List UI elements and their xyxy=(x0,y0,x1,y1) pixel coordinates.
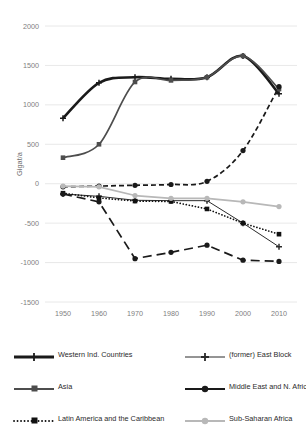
x-axis-tick-label: 1980 xyxy=(163,309,179,318)
x-axis-tick-label: 1970 xyxy=(127,309,143,318)
data-point-marker xyxy=(276,204,281,209)
data-point-marker xyxy=(97,142,102,147)
legend-label: Middle East and N. Africa xyxy=(229,382,306,392)
data-point-marker xyxy=(204,179,209,184)
legend-label: Sub-Saharan Africa xyxy=(229,414,292,424)
y-axis-tick-label: -1000 xyxy=(21,258,39,267)
y-axis-tick-label: 1000 xyxy=(23,100,39,109)
x-axis-tick-label: 2010 xyxy=(271,309,287,318)
data-point-marker xyxy=(204,243,209,248)
y-axis-tick-label: -500 xyxy=(25,219,39,228)
legend-label: Asia xyxy=(58,382,72,392)
x-axis-tick-label: 1950 xyxy=(55,309,71,318)
chart-container: 2000150010005000-500-1000-15001950196019… xyxy=(0,0,306,443)
series-line xyxy=(63,87,279,187)
data-point-marker xyxy=(241,221,246,226)
y-axis-title: Gigat/a xyxy=(15,151,24,176)
legend-item-asia[interactable]: Asia xyxy=(12,376,182,398)
legend-label: (former) East Block xyxy=(229,350,291,360)
data-point-marker xyxy=(168,250,173,255)
y-axis-tick-label: 0 xyxy=(35,179,39,188)
legend-item-latin-america-and-the-caribbean[interactable]: Latin America and the Caribbean xyxy=(12,408,182,430)
legend-label: Latin America and the Caribbean xyxy=(58,414,164,424)
legend-item-middle-east-and-n-africa[interactable]: Middle East and N. Africa xyxy=(183,376,303,398)
data-point-marker xyxy=(132,193,137,198)
y-axis-tick-label: 500 xyxy=(27,140,39,149)
legend-marker-asia xyxy=(12,381,56,393)
data-point-marker xyxy=(240,148,245,153)
x-axis-tick-label: 1990 xyxy=(199,309,215,318)
data-point-marker xyxy=(168,182,173,187)
legend-marker-latin-america-and-the-caribbean xyxy=(12,413,56,425)
series-line xyxy=(63,56,279,158)
y-axis-tick-label: 1500 xyxy=(23,61,39,70)
data-point-marker xyxy=(204,196,209,201)
data-point-marker xyxy=(132,256,137,261)
chart-legend: Western Ind. Countries (former) East Blo… xyxy=(0,336,306,443)
data-point-marker xyxy=(205,207,210,212)
data-point-marker xyxy=(168,196,173,201)
legend-item-former-east-block[interactable]: (former) East Block xyxy=(183,344,303,366)
data-point-marker xyxy=(241,54,246,59)
data-point-marker xyxy=(169,78,174,83)
data-point-marker xyxy=(276,84,281,89)
legend-marker-western-ind-countries xyxy=(12,349,56,361)
data-point-marker xyxy=(132,183,137,188)
data-point-marker xyxy=(133,80,138,85)
legend-item-sub-saharan-africa[interactable]: Sub-Saharan Africa xyxy=(183,408,303,430)
data-point-marker xyxy=(60,183,65,188)
data-point-marker xyxy=(240,258,245,263)
data-point-marker xyxy=(61,155,66,160)
legend-marker-middle-east-and-n-africa xyxy=(183,381,227,393)
data-point-marker xyxy=(276,259,281,264)
x-axis-tick-label: 2000 xyxy=(235,309,251,318)
data-point-marker xyxy=(276,244,282,250)
data-point-marker xyxy=(240,199,245,204)
data-point-marker xyxy=(205,75,210,80)
legend-label: Western Ind. Countries xyxy=(58,350,133,360)
x-axis-tick-label: 1960 xyxy=(91,309,107,318)
y-axis-tick-label: 2000 xyxy=(23,22,39,31)
data-point-marker xyxy=(277,232,282,237)
data-point-marker xyxy=(96,199,101,204)
data-point-marker xyxy=(96,184,101,189)
data-point-marker xyxy=(60,191,65,196)
legend-item-western-ind-countries[interactable]: Western Ind. Countries xyxy=(12,344,182,366)
line-chart-plot: 2000150010005000-500-1000-15001950196019… xyxy=(0,0,306,336)
y-axis-tick-label: -1500 xyxy=(21,298,39,307)
legend-marker-sub-saharan-africa xyxy=(183,413,227,425)
data-point-marker xyxy=(133,199,138,204)
legend-marker-former-east-block xyxy=(183,349,227,361)
